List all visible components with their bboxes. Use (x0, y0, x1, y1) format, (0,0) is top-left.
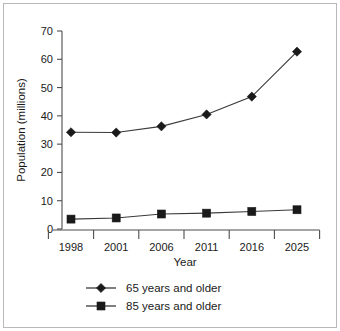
data-point-marker-diamond (96, 283, 105, 292)
x-tick-label: 2011 (195, 241, 219, 253)
data-point-marker-square (112, 214, 120, 222)
chart-legend: 65 years and older85 years and older (86, 282, 221, 312)
y-tick-label: 30 (41, 138, 53, 150)
legend-entry: 65 years and older (86, 282, 221, 294)
y-tick-label: 60 (41, 53, 53, 65)
data-point-marker-square (248, 207, 256, 215)
y-axis-title: Population (millions) (15, 78, 27, 182)
data-point-marker-square (157, 210, 165, 218)
legend-label: 85 years and older (126, 300, 221, 312)
data-point-marker-square (203, 209, 211, 217)
data-point-marker-diamond (157, 122, 166, 131)
x-tick-label: 1998 (59, 241, 83, 253)
y-tick-label: 10 (41, 195, 53, 207)
series-layer (66, 47, 301, 223)
y-tick-label: 70 (41, 25, 53, 37)
x-tick-label: 2016 (240, 241, 264, 253)
data-point-marker-square (67, 215, 75, 223)
series-line (71, 52, 297, 133)
legend-label: 65 years and older (126, 282, 221, 294)
data-point-marker-diamond (112, 128, 121, 137)
series-line (71, 210, 297, 219)
y-tick-label: 20 (41, 166, 53, 178)
chart-figure: Population (millions) 010203040506070 19… (0, 0, 340, 331)
series-1 (66, 47, 301, 137)
x-axis-ticks: 199820012006201120162025 (48, 230, 319, 253)
x-axis-title: Year (173, 256, 196, 268)
series-2 (67, 206, 301, 223)
data-point-marker-square (97, 302, 105, 310)
population-projection-line-chart: Population (millions) 010203040506070 19… (0, 0, 340, 331)
x-tick-label: 2006 (149, 241, 173, 253)
legend-entry: 85 years and older (86, 300, 221, 312)
y-tick-label: 40 (41, 110, 53, 122)
y-tick-label: 0 (47, 223, 53, 235)
y-tick-label: 50 (41, 82, 53, 94)
data-point-marker-square (293, 206, 301, 214)
data-point-marker-diamond (66, 128, 75, 137)
data-point-marker-diamond (202, 110, 211, 119)
x-tick-label: 2025 (285, 241, 309, 253)
x-tick-label: 2001 (104, 241, 128, 253)
y-axis-ticks: 010203040506070 (41, 25, 62, 235)
